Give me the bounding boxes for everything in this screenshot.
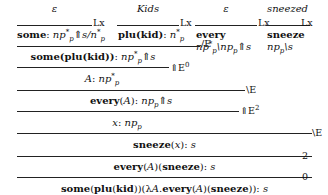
rule-label-slash-e: /E <box>201 38 211 49</box>
inference-line-leaf-1 <box>17 25 92 26</box>
term-some-plu-kid: some(plu(kid)) <box>31 51 115 62</box>
step-every-a-sneeze: every(A)(sneeze): s <box>17 161 312 173</box>
inference-line-slash-e <box>17 46 200 47</box>
inference-line-backslash-e-1 <box>17 90 245 91</box>
inference-line-leaf-2 <box>117 25 179 26</box>
premise-epsilon-2: ε <box>196 3 256 15</box>
step-sneeze-x: sneeze(x): s <box>17 139 312 151</box>
type-sneeze: npp\s <box>267 41 293 53</box>
word-some: some <box>17 29 46 40</box>
inference-line-up-e2 <box>17 111 239 112</box>
word-plu-kid: plu(kid) <box>118 29 163 40</box>
premise-sneezed: sneezed <box>267 3 308 15</box>
lexical-some: some: np*p⇑s/n*p <box>17 29 105 41</box>
lexical-plu-kid: plu(kid): n*p <box>118 29 184 41</box>
rule-label-up-e2: ⇑E2 <box>240 105 259 116</box>
conclusion: some(plu(kid))(λA.every(A)(sneeze)): s <box>17 183 312 195</box>
step-hypothesis-a: A: np*p <box>17 73 187 85</box>
rule-label-discharge-0: 0 <box>302 171 308 182</box>
inference-line-backslash-e-2 <box>17 133 312 134</box>
step-hypothesis-x: x: npp <box>17 117 237 129</box>
rule-label-backslash-e-2: \E <box>312 127 322 138</box>
step-every-a: every(A): npp⇑s <box>17 95 245 107</box>
inference-line-discharge-2 <box>17 156 312 157</box>
premise-kids: Kids <box>118 3 178 15</box>
rule-label-lx-4: Lx <box>301 17 313 28</box>
rule-label-lx-3: Lx <box>258 17 270 28</box>
rule-label-discharge-2: 2 <box>302 150 308 161</box>
word-sneeze: sneeze <box>267 29 305 41</box>
rule-label-lx-2: Lx <box>180 17 192 28</box>
inference-line-up-e0 <box>17 67 169 68</box>
premise-epsilon-1: ε <box>17 3 92 15</box>
rule-label-lx-1: Lx <box>93 17 105 28</box>
step-some-plu-kid: some(plu(kid)): np*p⇑s <box>17 51 169 63</box>
rule-label-up-e0: ⇑E0 <box>170 62 189 73</box>
inference-line-leaf-3 <box>195 25 257 26</box>
inference-line-discharge-0 <box>17 177 312 178</box>
term-a: A <box>85 73 92 84</box>
rule-label-backslash-e-1: \E <box>246 84 256 95</box>
